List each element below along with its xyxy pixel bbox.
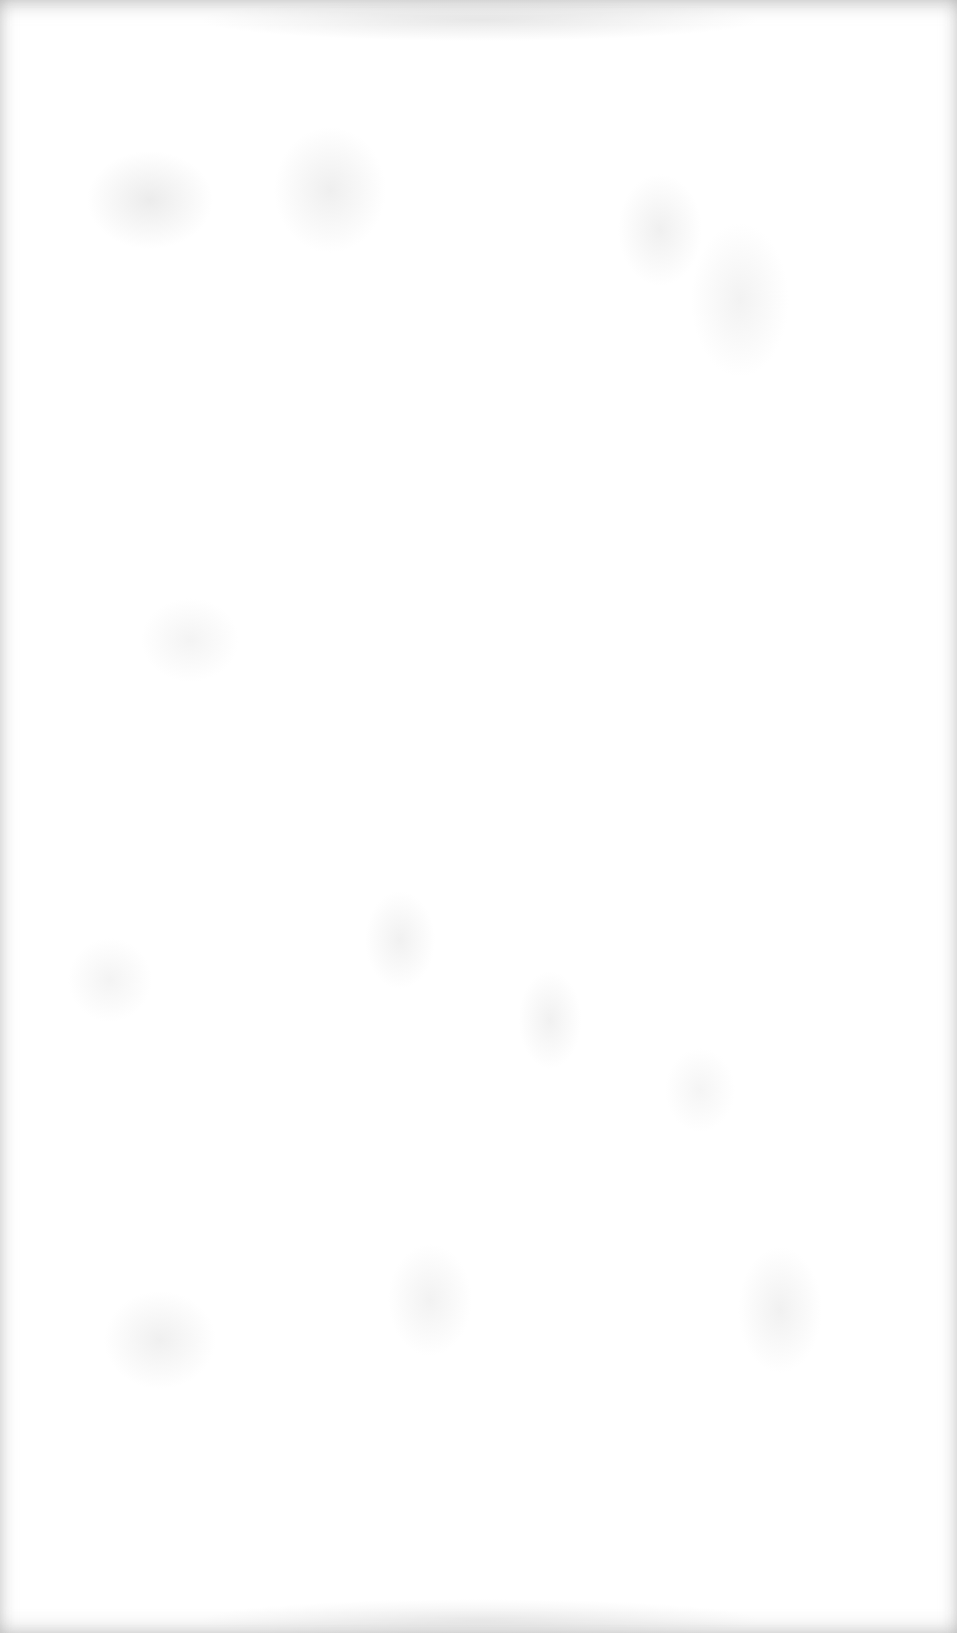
scan-edge-shadow: [0, 0, 957, 1633]
blank-paper-page: [0, 0, 957, 1633]
paper-texture: [0, 0, 957, 1633]
